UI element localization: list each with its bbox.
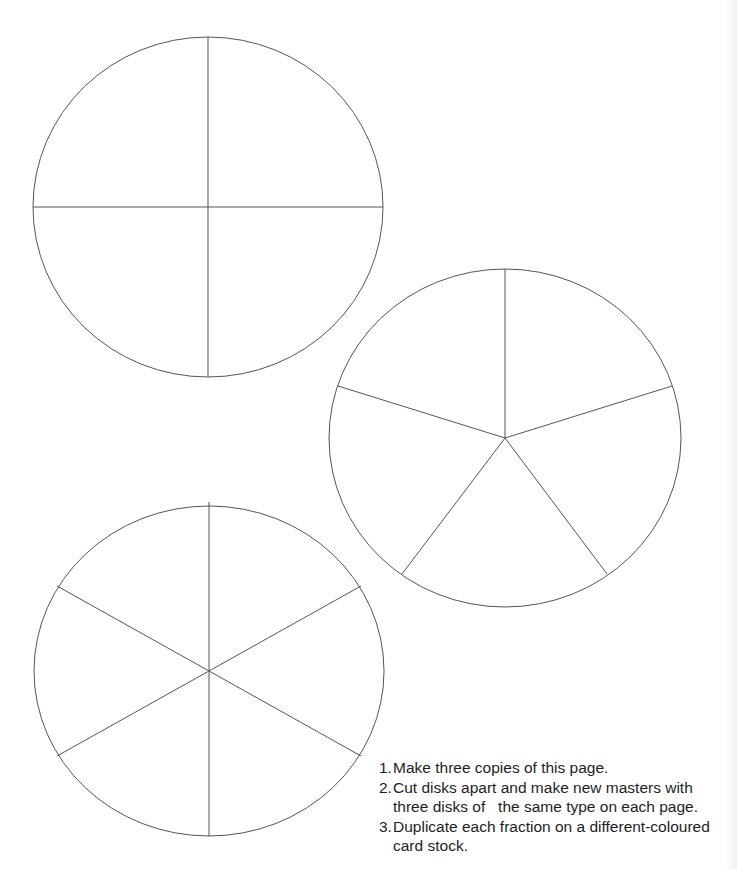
fifths-disk (329, 269, 681, 607)
division-line (209, 586, 361, 671)
division-line (338, 386, 505, 438)
instruction-text: Make three copies of this page. (393, 759, 608, 776)
instruction-number: 3. (379, 817, 392, 837)
instruction-item: 3. Duplicate each fraction on a differen… (379, 817, 729, 856)
instruction-item: 1. Make three copies of this page. (379, 758, 729, 778)
fraction-disks-figure (0, 0, 737, 869)
sixths-disk (34, 502, 384, 836)
instruction-number: 2. (379, 778, 392, 798)
division-line (505, 438, 607, 574)
instruction-number: 1. (379, 758, 392, 778)
division-line (209, 671, 361, 756)
instruction-text: Duplicate each fraction on a different-c… (393, 818, 710, 855)
division-line (402, 438, 505, 574)
instruction-text: Cut disks apart and make new masters wit… (393, 779, 698, 816)
quarters-disk (33, 37, 383, 377)
division-line (505, 386, 672, 438)
division-line (57, 586, 209, 671)
instruction-item: 2. Cut disks apart and make new masters … (379, 778, 729, 817)
division-line (57, 671, 209, 756)
instructions-list: 1. Make three copies of this page. 2. Cu… (379, 758, 729, 856)
